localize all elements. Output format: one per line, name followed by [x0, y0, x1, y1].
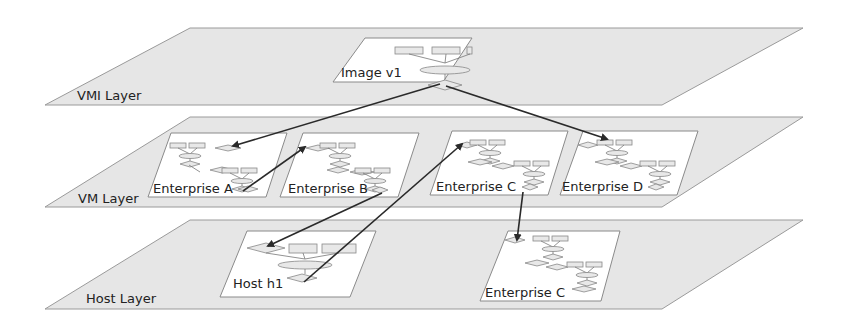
- card-host-h1: Host h1: [220, 231, 376, 297]
- card-label-enterprise-b: Enterprise B: [288, 181, 368, 196]
- card-enterprise-b: Enterprise B: [280, 133, 419, 197]
- vm-layer-label: VM Layer: [78, 191, 139, 206]
- card-enterprise-d: Enterprise D: [560, 131, 698, 195]
- card-label-enterprise-a: Enterprise A: [153, 181, 233, 196]
- card-label-enterprise-c-vm: Enterprise C: [436, 179, 516, 194]
- host-layer: Host Layer Host h1 Enterprise C: [45, 220, 803, 309]
- card-label-enterprise-c-host: Enterprise C: [485, 285, 565, 300]
- vmi-layer-label: VMI Layer: [77, 88, 142, 103]
- vmi-layer: VMI Layer Image v1: [45, 28, 803, 105]
- card-label-host-h1: Host h1: [233, 276, 283, 291]
- card-enterprise-c-vm: Enterprise C: [430, 131, 568, 195]
- card-label-image-v1: Image v1: [341, 65, 402, 80]
- card-label-enterprise-d: Enterprise D: [562, 179, 643, 194]
- layered-diagram: VMI Layer Image v1 VM Layer En: [0, 0, 849, 325]
- card-enterprise-a: Enterprise A: [148, 133, 287, 197]
- host-layer-label: Host Layer: [86, 291, 157, 306]
- vm-layer: VM Layer Enterprise A Enterprise B: [45, 117, 803, 207]
